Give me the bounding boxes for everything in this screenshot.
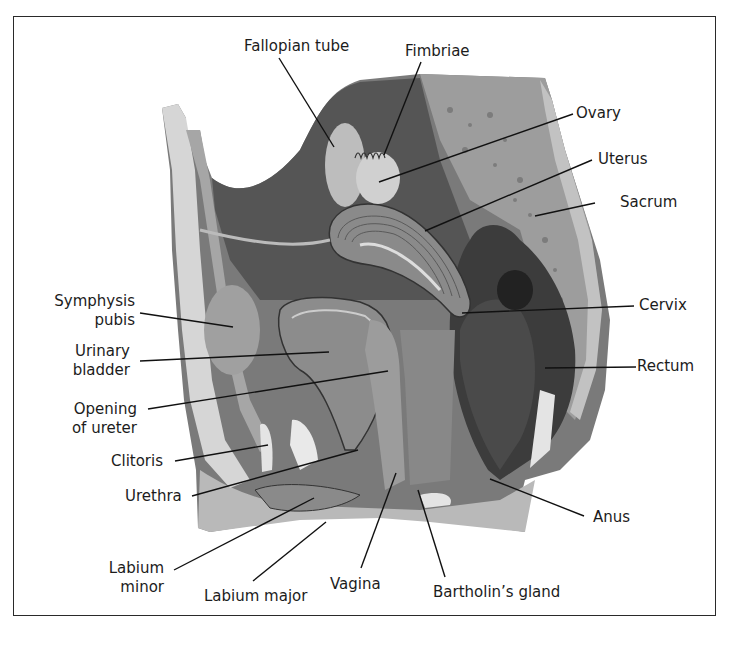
label-fallopian-tube: Fallopian tube	[244, 37, 349, 56]
label-opening-of-ureter-line1: Opening	[40, 400, 137, 419]
label-labium-minor-line1: Labium	[80, 559, 164, 578]
label-labium-major: Labium major	[204, 587, 307, 606]
label-fimbriae: Fimbriae	[405, 42, 470, 61]
label-ovary: Ovary	[576, 104, 621, 123]
label-sacrum: Sacrum	[620, 193, 677, 212]
label-anus: Anus	[593, 508, 630, 527]
label-opening-of-ureter-line2: of ureter	[40, 419, 137, 438]
label-labium-minor: Labium minor	[80, 559, 164, 597]
label-clitoris: Clitoris	[111, 452, 163, 471]
label-bartholins-gland: Bartholin’s gland	[433, 583, 560, 602]
label-urinary-bladder-line1: Urinary	[40, 342, 130, 361]
label-vagina: Vagina	[330, 575, 381, 594]
label-uterus: Uterus	[598, 150, 648, 169]
label-urethra: Urethra	[125, 487, 182, 506]
label-symphysis-pubis-line2: pubis	[40, 311, 135, 330]
ovary-shape	[356, 152, 400, 204]
label-opening-of-ureter: Opening of ureter	[40, 400, 137, 438]
label-rectum: Rectum	[637, 357, 694, 376]
label-urinary-bladder: Urinary bladder	[40, 342, 130, 380]
label-symphysis-pubis-line1: Symphysis	[40, 292, 135, 311]
label-urinary-bladder-line2: bladder	[40, 361, 130, 380]
symphysis-pubis-shape	[204, 285, 260, 375]
label-cervix: Cervix	[639, 296, 687, 315]
label-symphysis-pubis: Symphysis pubis	[40, 292, 135, 330]
label-labium-minor-line2: minor	[80, 578, 164, 597]
